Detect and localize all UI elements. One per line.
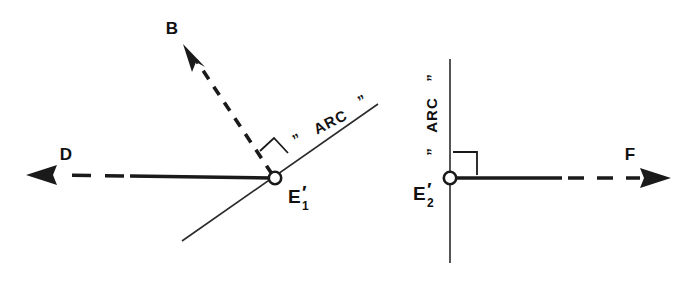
vector-d-solid-segment <box>130 176 272 178</box>
label-arc-right-open-quote: ” <box>423 148 440 156</box>
label-vector-b: B <box>166 19 178 38</box>
label-arc-right-text: ARC <box>423 97 440 133</box>
label-node-e2-base: E <box>413 183 426 204</box>
label-node-e2-subscript: 2 <box>427 196 434 210</box>
label-arc-right-close-quote: ” <box>423 74 440 82</box>
label-node-e1-subscript: 1 <box>302 199 309 213</box>
label-vector-f: F <box>625 145 635 164</box>
node-e1-circle <box>269 172 281 184</box>
node-e2-circle <box>444 172 456 184</box>
diagram-background <box>0 0 697 282</box>
label-node-e1-base: E <box>288 186 301 207</box>
figure-container: B D ” ARC ” E ′ 1 <box>0 0 697 282</box>
vector-diagram: B D ” ARC ” E ′ 1 <box>0 0 697 282</box>
label-vector-d: D <box>60 145 72 164</box>
